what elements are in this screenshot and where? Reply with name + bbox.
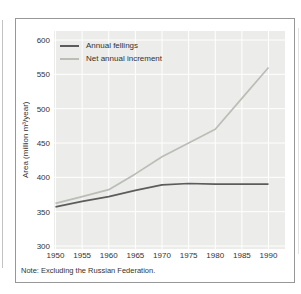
legend-label: Annual fellings bbox=[86, 41, 138, 50]
legend-swatch bbox=[60, 45, 79, 47]
x-tick-label: 1990 bbox=[260, 251, 278, 260]
legend: Annual fellingsNet annual increment bbox=[60, 39, 162, 65]
page-edge-line bbox=[2, 20, 3, 268]
legend-swatch bbox=[60, 58, 79, 60]
x-tick-label: 1985 bbox=[233, 251, 251, 260]
y-tick-label: 350 bbox=[16, 207, 50, 216]
y-tick-label: 400 bbox=[16, 173, 50, 182]
x-tick-label: 1955 bbox=[73, 251, 91, 260]
x-tick-label: 1975 bbox=[180, 251, 198, 260]
y-tick-label: 500 bbox=[16, 104, 50, 113]
x-tick-label: 1950 bbox=[47, 251, 65, 260]
y-tick-label: 550 bbox=[16, 70, 50, 79]
legend-item: Net annual increment bbox=[60, 52, 162, 65]
plot-area: Annual fellingsNet annual increment bbox=[54, 31, 285, 249]
footnote: Note: Excluding the Russian Federation. bbox=[21, 266, 155, 275]
legend-label: Net annual increment bbox=[86, 54, 162, 63]
chart-panel: Area (million m³/year) Annual fellingsNe… bbox=[15, 18, 295, 283]
y-tick-label: 600 bbox=[16, 36, 50, 45]
x-tick-label: 1980 bbox=[206, 251, 224, 260]
y-tick-label: 300 bbox=[16, 242, 50, 251]
x-tick-label: 1970 bbox=[153, 251, 171, 260]
x-tick-label: 1960 bbox=[100, 251, 118, 260]
x-tick-label: 1965 bbox=[126, 251, 144, 260]
page-edge-line-right bbox=[298, 28, 299, 254]
y-tick-label: 450 bbox=[16, 139, 50, 148]
legend-item: Annual fellings bbox=[60, 39, 162, 52]
